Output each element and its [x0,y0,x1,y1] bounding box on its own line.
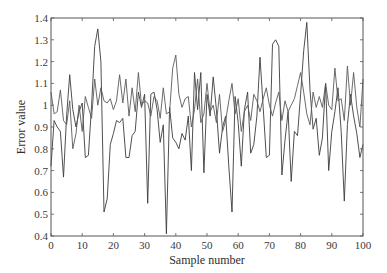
y-axis-tick-labels: 0.40.50.60.70.80.911.11.21.31.4 [34,12,48,242]
x-tick-label: 10 [77,239,89,251]
y-tick-label: 0.8 [34,143,48,155]
y-tick-label: 1.1 [34,77,48,89]
x-tick-label: 60 [233,239,245,251]
x-tick-label: 0 [48,239,54,251]
x-tick-label: 30 [139,239,151,251]
x-tick-label: 50 [202,239,214,251]
data-series [51,22,363,233]
y-tick-label: 0.5 [34,208,48,220]
axis-ticks [51,18,363,236]
y-tick-label: 1.2 [34,56,48,68]
x-tick-label: 40 [170,239,182,251]
y-axis-label: Error value [14,100,28,154]
series-line-1 [51,22,363,233]
x-tick-label: 70 [264,239,276,251]
x-tick-label: 20 [108,239,120,251]
y-tick-label: 1.4 [34,12,48,24]
y-tick-label: 0.7 [34,165,48,177]
y-tick-label: 1 [43,99,49,111]
line-chart: 0102030405060708090100 0.40.50.60.70.80.… [0,0,387,273]
plot-frame [51,18,363,236]
y-tick-label: 0.4 [34,230,48,242]
y-tick-label: 1.3 [34,34,48,46]
x-axis-tick-labels: 0102030405060708090100 [48,239,372,251]
y-tick-label: 0.9 [34,121,48,133]
x-tick-label: 100 [355,239,372,251]
x-tick-label: 80 [295,239,307,251]
x-tick-label: 90 [326,239,338,251]
x-axis-label: Sample number [169,253,245,267]
y-tick-label: 0.6 [34,186,48,198]
